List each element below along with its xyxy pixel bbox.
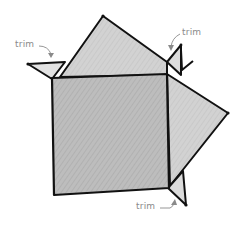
arrowhead-left-icon (48, 53, 54, 58)
arrowhead-bottom-right-icon (171, 199, 177, 205)
top-flap (60, 16, 167, 77)
top-right-trim-notch (181, 50, 193, 70)
right-flap (167, 74, 228, 186)
arrowhead-top-right-icon (168, 45, 174, 51)
top-right-trim-flap (167, 45, 181, 75)
trim-label-bottom-right: trim (136, 202, 155, 211)
trim-label-left: trim (15, 40, 34, 49)
folding-diagram (0, 0, 240, 225)
main-square (52, 74, 169, 195)
arrow-trim-left (39, 46, 51, 54)
trim-label-top-right: trim (182, 28, 201, 37)
